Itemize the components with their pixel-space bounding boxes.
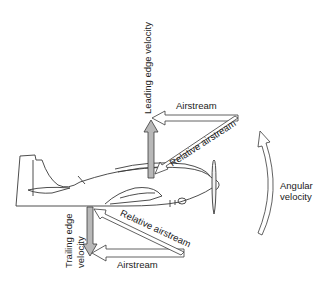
leading-edge-velocity-label: Leading edge velocity	[143, 22, 153, 114]
top-airstream-label: Airstream	[176, 101, 217, 111]
bottom-airstream-label: Airstream	[117, 260, 158, 270]
angular-velocity-label-line2: velocity	[280, 191, 313, 202]
propeller-velocity-diagram	[0, 0, 332, 286]
trailing-edge-velocity-label-line2: velocity	[76, 236, 86, 268]
angular-velocity-label: Angular velocity	[280, 180, 313, 202]
angular-velocity-label-line1: Angular	[280, 180, 313, 191]
aircraft-illustration	[16, 155, 219, 214]
leading-edge-velocity-arrow	[144, 120, 158, 178]
angular-velocity-arrow	[258, 131, 273, 235]
trailing-edge-velocity-label-line1: Trailing edge	[64, 213, 74, 268]
